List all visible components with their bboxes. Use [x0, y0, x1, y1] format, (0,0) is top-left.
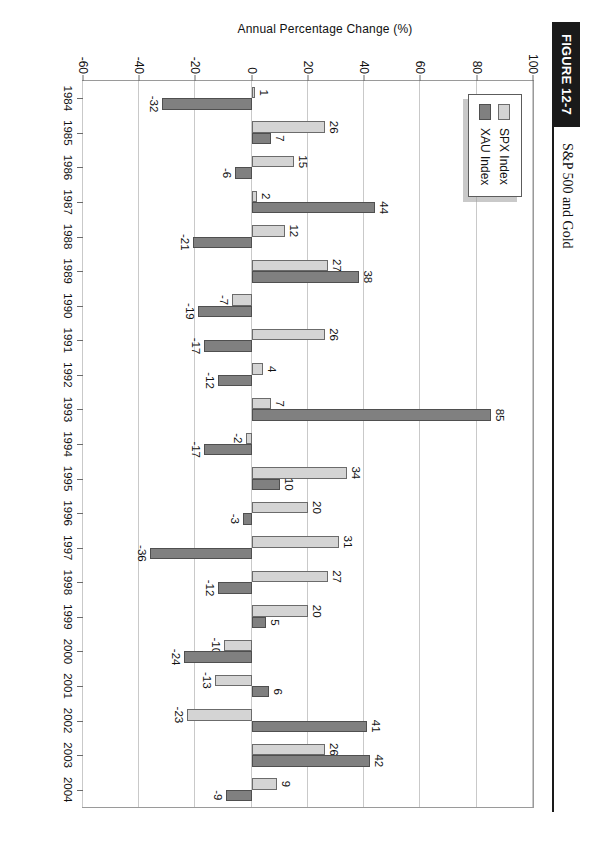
x-tick-label-1989: 1989: [62, 258, 74, 284]
bar-xau-1987: [252, 202, 376, 213]
bar-value-label: 15: [297, 155, 309, 168]
bar-value-label: -9: [212, 790, 224, 800]
bar-value-label: -6: [221, 168, 233, 178]
y-tick-label: -40: [132, 57, 146, 81]
legend-item-xau: XAU Index: [476, 104, 495, 185]
bar-xau-1992: [218, 375, 252, 386]
bar-value-label: -2: [232, 433, 244, 443]
x-tick-mark: [77, 444, 83, 445]
bar-spx-1996: [252, 502, 308, 513]
gridline: [307, 81, 308, 807]
x-tick-mark: [77, 721, 83, 722]
bar-value-label: 20: [311, 501, 323, 514]
bar-value-label: 12: [289, 224, 301, 237]
bar-value-label: 6: [272, 689, 284, 695]
y-tick-label: -60: [76, 57, 90, 81]
spx-swatch-icon: [499, 104, 511, 120]
bar-value-label: 9: [280, 781, 292, 787]
gridline: [420, 81, 421, 807]
bar-spx-1997: [252, 536, 339, 547]
bar-spx-1991: [252, 329, 325, 340]
bar-xau-1989: [252, 271, 359, 282]
bar-spx-1998: [252, 571, 328, 582]
bar-xau-1993: [252, 409, 491, 420]
x-tick-mark: [77, 582, 83, 583]
x-tick-label-1987: 1987: [62, 189, 74, 215]
bar-value-label: 27: [331, 570, 343, 583]
bar-value-label: -36: [137, 545, 149, 562]
gridline: [363, 81, 364, 807]
bar-value-label: -17: [190, 338, 202, 355]
bar-value-label: -12: [204, 372, 216, 389]
bar-xau-2000: [184, 651, 252, 662]
bar-value-label: 26: [328, 121, 340, 134]
x-tick-mark: [77, 409, 83, 410]
x-tick-mark: [77, 755, 83, 756]
bar-value-label: 10: [283, 478, 295, 491]
y-tick-label: 80: [470, 61, 484, 81]
x-tick-label-1995: 1995: [62, 466, 74, 492]
bar-xau-2002: [252, 721, 367, 732]
bar-spx-1999: [252, 605, 308, 616]
bar-value-label: -13: [201, 672, 213, 689]
legend-label-spx: SPX Index: [498, 128, 512, 185]
bar-value-label: 7: [274, 135, 286, 141]
bar-spx-2000: [224, 640, 252, 651]
y-tick-label: -20: [189, 57, 203, 81]
bar-value-label: 27: [331, 259, 343, 272]
x-tick-label-1988: 1988: [62, 224, 74, 250]
bar-xau-1999: [252, 617, 266, 628]
bar-spx-1990: [232, 294, 252, 305]
bar-spx-2003: [252, 744, 325, 755]
bar-xau-1994: [204, 444, 252, 455]
bar-value-label: -3: [229, 514, 241, 524]
bar-value-label: -17: [190, 441, 202, 458]
y-tick-label: 40: [357, 61, 371, 81]
y-tick-label: 60: [414, 61, 428, 81]
x-tick-label-2000: 2000: [62, 639, 74, 665]
bar-spx-1993: [252, 398, 272, 409]
bar-spx-1986: [252, 156, 294, 167]
header-rule: [552, 22, 554, 812]
x-tick-label-2002: 2002: [62, 708, 74, 734]
bar-value-label: 44: [379, 201, 391, 214]
bar-xau-1988: [193, 237, 252, 248]
bar-value-label: 20: [311, 605, 323, 618]
bar-xau-1998: [218, 582, 252, 593]
bar-xau-1984: [162, 98, 252, 109]
x-tick-label-1990: 1990: [62, 293, 74, 319]
bar-spx-1989: [252, 260, 328, 271]
bar-value-label: 26: [328, 743, 340, 756]
x-tick-mark: [77, 167, 83, 168]
figure-header: FIGURE 12-7 S&P 500 and Gold: [554, 22, 580, 812]
bar-value-label: -21: [179, 234, 191, 251]
x-tick-mark: [77, 271, 83, 272]
x-tick-label-1997: 1997: [62, 535, 74, 561]
bar-value-label: 34: [350, 466, 362, 479]
bar-xau-1995: [252, 479, 280, 490]
figure-page: FIGURE 12-7 S&P 500 and Gold Annual Perc…: [0, 0, 604, 852]
x-tick-label-1985: 1985: [62, 120, 74, 146]
chart-legend: SPX Index XAU Index: [468, 94, 522, 197]
x-tick-mark: [77, 375, 83, 376]
x-tick-mark: [77, 513, 83, 514]
bar-spx-1985: [252, 121, 325, 132]
bar-value-label: -32: [148, 96, 160, 113]
bar-spx-1988: [252, 225, 286, 236]
bar-spx-2004: [252, 778, 277, 789]
x-tick-mark: [77, 237, 83, 238]
x-tick-label-1996: 1996: [62, 500, 74, 526]
bar-xau-2003: [252, 755, 370, 766]
bar-value-label: -24: [170, 649, 182, 666]
y-tick-label: 20: [301, 61, 315, 81]
bar-spx-1994: [246, 433, 252, 444]
bar-xau-2001: [252, 686, 269, 697]
bar-spx-1987: [252, 191, 258, 202]
x-tick-mark: [77, 479, 83, 480]
bar-value-label: -12: [204, 580, 216, 597]
legend-item-spx: SPX Index: [495, 104, 514, 185]
x-tick-label-1998: 1998: [62, 569, 74, 595]
x-tick-mark: [77, 790, 83, 791]
bar-spx-1984: [252, 87, 255, 98]
bar-value-label: -7: [218, 295, 230, 305]
